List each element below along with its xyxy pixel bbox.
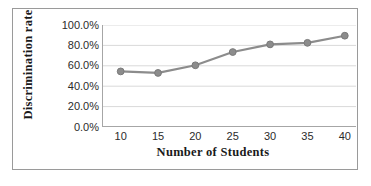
y-tick-label: 0.0%	[39, 122, 99, 133]
data-point-30	[267, 41, 274, 48]
data-point-25	[229, 49, 236, 56]
x-tick-label: 30	[253, 130, 287, 143]
data-point-40	[341, 32, 348, 39]
y-tick-label: 80.0%	[39, 40, 99, 51]
y-axis-tick-labels: 0.0%20.0%40.0%60.0%80.0%100.0%	[39, 19, 99, 129]
data-point-35	[304, 39, 311, 46]
chart-figure: Discrimination rate 0.0%20.0%40.0%60.0%8…	[12, 8, 358, 170]
y-tick-label: 60.0%	[39, 60, 99, 71]
x-tick-label: 20	[178, 130, 212, 143]
series-markers	[117, 32, 348, 76]
line-chart-svg	[102, 25, 356, 127]
x-tick-label: 40	[328, 130, 362, 143]
data-point-15	[155, 70, 162, 77]
y-tick-label: 20.0%	[39, 101, 99, 112]
x-tick-label: 10	[104, 130, 138, 143]
x-axis-tick-labels: 10152025303540	[102, 130, 356, 146]
y-axis-title: Discrimination rate	[21, 9, 36, 121]
data-point-20	[192, 62, 199, 69]
data-point-10	[117, 68, 124, 75]
x-tick-label: 15	[141, 130, 175, 143]
y-tick-label: 100.0%	[39, 20, 99, 31]
x-tick-label: 35	[290, 130, 324, 143]
plot-area	[102, 25, 356, 127]
x-tick-label: 25	[216, 130, 250, 143]
x-axis-title: Number of Students	[73, 145, 353, 160]
y-tick-label: 40.0%	[39, 81, 99, 92]
